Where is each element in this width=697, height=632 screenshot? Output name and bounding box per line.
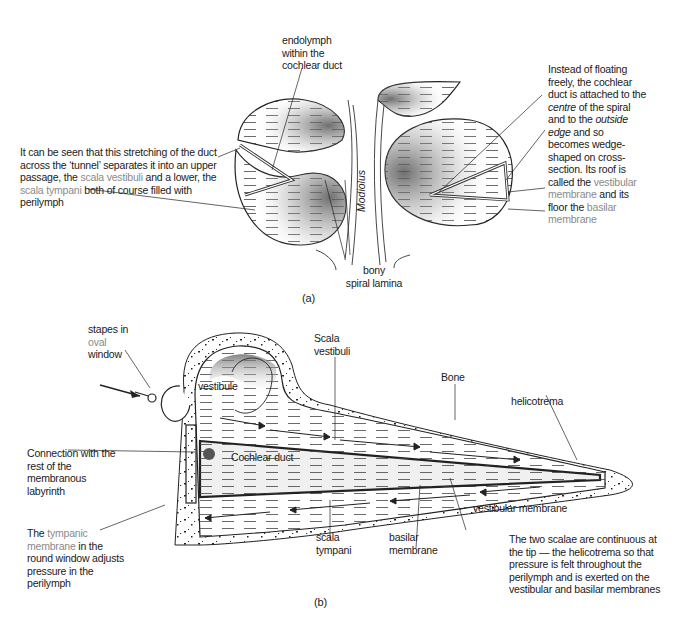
text: floor the [548,201,587,213]
label-line: section. Its roof is [548,163,646,176]
label-line: perilymph [27,577,124,590]
label-line: across the ‘tunnel’ separates it into an… [20,159,217,172]
label-line: membrane in the [27,540,124,553]
label-line: duct is attached to the [548,88,646,101]
label-bone: Bone [441,371,465,384]
label-line: Instead of floating [548,63,646,76]
label-wedge-explanation: Instead of floating freely, the cochlear… [548,63,646,226]
label-line: membrane [389,544,438,557]
label-line: becomes wedge- [548,138,646,151]
label-line: Connection with the [27,447,115,460]
label-line: The tympanic [27,527,124,540]
label-line: and to the outside [548,113,646,126]
label-line: membrane [548,213,646,226]
caption-a: (a) [302,292,315,305]
label-line: perilymph [20,196,217,209]
label-scala-tympani: scala tympani [316,531,351,556]
text: centre [548,101,576,113]
label-line: cochlear duct [282,59,342,72]
label-line: pressure in the [27,565,124,578]
term-oval: oval [88,336,128,349]
label-line: passage, the scala vestibuli and a lower… [20,171,217,184]
text: and a lower, the [143,171,217,183]
label-line: edge and so [548,126,646,139]
text: outside [595,113,627,125]
label-line: within the [282,47,342,60]
text: in the [76,540,103,552]
label-line: tympani [316,544,351,557]
text: and to the [548,113,595,125]
label-endolymph: endolymph within the cochlear duct [282,34,342,72]
label-line: bony [336,264,412,277]
label-line: window [88,348,128,361]
label-helicotrema: helicotrema [511,395,563,408]
label-bony-spiral-lamina: bony spiral lamina [336,264,412,289]
label-line: basilar [389,531,438,544]
label-line: labyrinth [27,485,115,498]
label-line: membranous [27,472,115,485]
term-vestibular: vestibular [594,176,637,188]
label-line: called the vestibular [548,176,646,189]
term-membrane: membrane [27,540,76,552]
term-scala-tympani: scala tympani [20,184,82,196]
label-helicotrema-note: The two scalae are continuous at the tip… [509,533,660,596]
label-line: rest of the [27,460,115,473]
text: The [27,527,47,539]
label-line: perilymph and is exerted on the [509,571,660,584]
text: edge [548,126,571,138]
label-line: vestibular and basilar membranes [509,583,660,596]
label-line: floor the basilar [548,201,646,214]
label-line: membrane and its [548,188,646,201]
label-line: stapes in [88,323,128,336]
label-line: scala [316,531,351,544]
term-tympanic: tympanic [47,527,87,539]
label-line: the tip — the helicotrema so that [509,546,660,559]
label-line: round window adjusts [27,552,124,565]
label-line: spiral lamina [336,277,412,290]
label-line: freely, the cochlear [548,76,646,89]
text: called the [548,176,594,188]
label-scala-vestibuli: Scala vestibuli [314,332,350,357]
label-tunnel-explanation: It can be seen that this stretching of t… [20,146,217,209]
label-line: scala tympani both of course filled with [20,184,217,197]
right-cochlear-turn-upper [378,82,460,117]
endolymph-connection-dot [203,448,215,460]
text: both of course filled with [82,184,192,196]
text: passage, the [20,171,80,183]
left-cochlear-turn-lower [235,145,346,245]
label-vestibule: vestibule [198,380,238,393]
label-stapes: stapes in oval window [88,323,128,361]
term-scala-vestibuli: scala vestibuli [80,171,142,183]
label-cochlear-duct: Cochlear duct [231,451,293,464]
text: and so [571,126,604,138]
label-line: It can be seen that this stretching of t… [20,146,217,159]
label-tympanic-membrane: The tympanic membrane in the round windo… [27,527,124,590]
text: and its [597,188,629,200]
text: of the spiral [576,101,630,113]
label-line: centre of the spiral [548,101,646,114]
label-line: pressure is felt throughout the [509,558,660,571]
term-membrane: membrane [548,213,597,225]
label-modiolus: Modiolus [355,170,367,212]
label-line: endolymph [282,34,342,47]
term-membrane: membrane [548,188,597,200]
label-line: shaped on cross- [548,151,646,164]
term-basilar: basilar [587,201,617,213]
label-line: The two scalae are continuous at [509,533,660,546]
left-cochlear-turn-upper [238,99,344,152]
label-vestibular-membrane: vestibular membrane [473,502,567,515]
label-line: Scala [314,332,350,345]
label-connection: Connection with the rest of the membrano… [27,447,115,497]
label-basilar-membrane: basilar membrane [389,531,438,556]
caption-b: (b) [314,596,327,609]
label-line: vestibuli [314,345,350,358]
right-cochlear-turn-lower [385,119,512,226]
